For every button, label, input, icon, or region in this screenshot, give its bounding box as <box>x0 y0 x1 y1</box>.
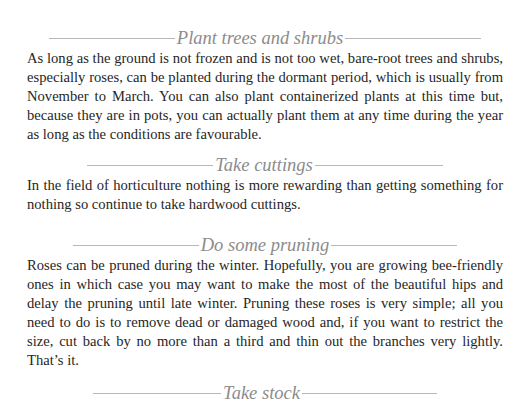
section-body: Roses can be pruned during the winter. H… <box>27 256 503 370</box>
heading-rule-left <box>49 38 175 39</box>
section-title: Do some pruning <box>199 234 331 256</box>
heading-rule-right <box>302 393 437 394</box>
section-heading: Take stock <box>27 382 503 404</box>
section-take-stock: Take stock <box>27 382 503 404</box>
section-heading: Do some pruning <box>27 234 503 256</box>
heading-rule-right <box>331 245 457 246</box>
heading-rule-right <box>345 38 481 39</box>
heading-rule-left <box>93 393 221 394</box>
section-take-cuttings: Take cuttings In the field of horticultu… <box>27 154 503 214</box>
section-title: Plant trees and shrubs <box>175 27 345 49</box>
section-title: Take cuttings <box>213 154 314 176</box>
section-body: As long as the ground is not frozen and … <box>27 49 503 144</box>
heading-rule-right <box>315 165 443 166</box>
section-title: Take stock <box>221 382 302 404</box>
heading-rule-left <box>87 165 213 166</box>
section-do-some-pruning: Do some pruning Roses can be pruned duri… <box>27 234 503 370</box>
section-body: In the field of horticulture nothing is … <box>27 176 503 214</box>
heading-rule-left <box>73 245 199 246</box>
section-heading: Plant trees and shrubs <box>27 27 503 49</box>
section-plant-trees: Plant trees and shrubs As long as the gr… <box>27 27 503 144</box>
section-heading: Take cuttings <box>27 154 503 176</box>
